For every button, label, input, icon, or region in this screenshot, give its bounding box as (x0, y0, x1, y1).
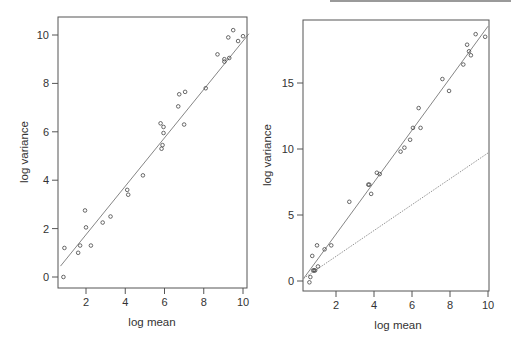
x-tick-label: 6 (409, 299, 415, 311)
data-point (226, 36, 230, 40)
data-point (101, 221, 105, 225)
right-y-axis-title: log variance (261, 124, 273, 186)
right-data-points (308, 32, 487, 284)
data-point (403, 146, 407, 150)
y-tick-label: 5 (288, 209, 294, 221)
data-point (483, 35, 487, 39)
right-panel: 246810 051015 log mean log variance (261, 20, 494, 331)
data-point (84, 226, 88, 230)
data-point (408, 138, 412, 142)
data-point (183, 90, 187, 94)
left-fit-lines (60, 34, 248, 266)
y-tick-label: 8 (43, 77, 49, 89)
fit-line (60, 34, 248, 266)
left-x-axis: 246810 (83, 288, 249, 308)
data-point (160, 147, 164, 151)
data-point (329, 244, 333, 248)
x-tick-label: 6 (161, 296, 167, 308)
data-point (241, 34, 245, 38)
data-point (89, 244, 93, 248)
data-point (465, 43, 469, 47)
left-data-points (62, 28, 245, 278)
y-tick-label: 15 (282, 77, 294, 89)
left-panel: 246810 0246810 log mean log variance (18, 17, 249, 328)
x-tick-label: 8 (447, 299, 453, 311)
data-point (162, 125, 166, 129)
y-tick-label: 10 (282, 143, 294, 155)
x-tick-label: 10 (482, 299, 494, 311)
data-point (125, 188, 129, 192)
x-tick-label: 2 (333, 299, 339, 311)
reference-line (304, 153, 488, 278)
x-tick-label: 4 (122, 296, 128, 308)
data-point (216, 53, 220, 57)
data-point (348, 200, 352, 204)
y-tick-label: 6 (43, 126, 49, 138)
data-point (308, 281, 312, 285)
y-tick-label: 2 (43, 223, 49, 235)
x-tick-label: 4 (371, 299, 377, 311)
data-point (369, 192, 373, 196)
right-fit-lines (304, 26, 488, 278)
data-point (417, 106, 421, 110)
right-plot-frame (303, 20, 489, 291)
x-tick-label: 2 (83, 296, 89, 308)
data-point (162, 131, 166, 135)
data-point (310, 254, 314, 258)
data-point (474, 32, 478, 36)
data-point (231, 28, 235, 32)
data-point (462, 63, 466, 67)
left-y-axis-title: log variance (18, 121, 30, 183)
data-point (159, 122, 163, 126)
x-tick-label: 8 (201, 296, 207, 308)
data-point (447, 89, 451, 93)
right-x-axis-title: log mean (374, 319, 421, 331)
data-point (76, 251, 80, 255)
data-point (177, 92, 181, 96)
data-point (309, 275, 313, 279)
data-point (469, 53, 473, 57)
data-point (315, 244, 319, 248)
y-tick-label: 0 (43, 271, 49, 283)
data-point (126, 193, 130, 197)
data-point (316, 265, 320, 269)
left-y-axis: 0246810 (37, 29, 58, 283)
figure: 246810 0246810 log mean log variance 246… (0, 0, 511, 345)
y-tick-label: 10 (37, 29, 49, 41)
left-x-axis-title: log mean (128, 316, 175, 328)
data-point (62, 275, 66, 279)
data-point (182, 123, 186, 127)
data-point (223, 57, 227, 61)
right-y-axis: 051015 (282, 77, 303, 287)
data-point (161, 143, 165, 147)
x-tick-label: 10 (237, 296, 249, 308)
data-point (236, 39, 240, 43)
y-tick-label: 4 (43, 174, 49, 186)
data-point (419, 126, 423, 130)
data-point (141, 174, 145, 178)
data-point (441, 77, 445, 81)
fit-line (304, 26, 488, 278)
data-point (109, 215, 113, 219)
right-x-axis: 246810 (333, 291, 494, 311)
y-tick-label: 0 (288, 275, 294, 287)
data-point (176, 105, 180, 109)
data-point (63, 246, 67, 250)
data-point (78, 244, 82, 248)
data-point (399, 150, 403, 154)
data-point (83, 209, 87, 213)
